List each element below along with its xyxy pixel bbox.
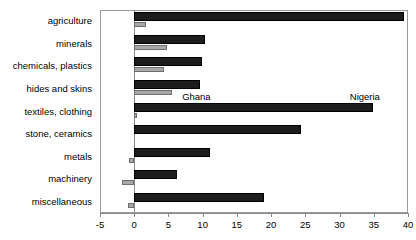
x-tick-label: 10 <box>197 219 208 230</box>
bar-nigeria-metals <box>134 148 209 157</box>
x-tick-label: 40 <box>403 219 414 230</box>
x-tick-label: 30 <box>334 219 345 230</box>
x-tick <box>134 213 135 217</box>
series-annotation-nigeria: Nigeria <box>350 92 380 102</box>
x-tick-label: 25 <box>300 219 311 230</box>
bar-nigeria-agriculture <box>134 12 404 21</box>
x-tick <box>203 213 204 217</box>
bar-ghana-textiles-clothing <box>134 113 137 118</box>
x-tick-label: 35 <box>368 219 379 230</box>
x-axis-line <box>100 213 408 214</box>
bar-chart: agriculturemineralschemicals, plasticshi… <box>0 0 416 240</box>
x-tick <box>168 213 169 217</box>
bar-ghana-chemicals-plastics <box>134 67 164 72</box>
bar-nigeria-minerals <box>134 35 205 44</box>
bar-ghana-miscellaneous <box>128 203 134 208</box>
bar-nigeria-chemicals-plastics <box>134 57 202 66</box>
x-tick-label: 15 <box>232 219 243 230</box>
x-tick <box>374 213 375 217</box>
x-tick-label: 5 <box>166 219 171 230</box>
bar-ghana-machinery <box>122 180 134 185</box>
x-tick <box>271 213 272 217</box>
x-tick <box>305 213 306 217</box>
bar-nigeria-machinery <box>134 170 176 179</box>
x-tick <box>408 213 409 217</box>
x-tick-label: 0 <box>132 219 137 230</box>
x-tick <box>237 213 238 217</box>
x-tick-label: 20 <box>266 219 277 230</box>
bar-ghana-hides-and-skins <box>134 90 172 95</box>
bar-ghana-metals <box>129 158 134 163</box>
bar-ghana-agriculture <box>134 22 146 27</box>
bar-nigeria-stone-ceramics <box>134 125 300 134</box>
bar-nigeria-miscellaneous <box>134 193 264 202</box>
bar-nigeria-textiles-clothing <box>134 103 373 112</box>
bar-ghana-minerals <box>134 45 167 50</box>
x-tick-label: -5 <box>96 219 104 230</box>
x-tick <box>100 213 101 217</box>
series-annotation-ghana: Ghana <box>182 92 211 102</box>
bar-nigeria-hides-and-skins <box>134 80 200 89</box>
x-tick <box>340 213 341 217</box>
bars-layer <box>0 10 416 213</box>
